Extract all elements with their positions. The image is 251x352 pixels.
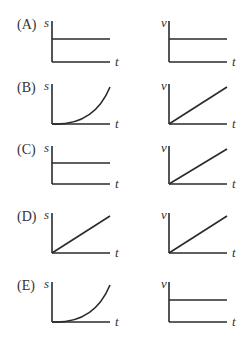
linear-line <box>52 216 110 253</box>
option-label: (D) <box>17 209 37 225</box>
velocity-time-graph: vt <box>161 207 236 260</box>
y-axis-label: v <box>161 140 167 155</box>
velocity-time-graph: vt <box>161 140 236 191</box>
option-c: (C)stvt <box>17 140 236 191</box>
linear-line <box>169 216 227 253</box>
option-b: (B)stvt <box>17 78 236 131</box>
option-a: (A)stvt <box>17 15 236 69</box>
x-axis-label: t <box>115 116 119 131</box>
y-axis-label: s <box>44 15 49 30</box>
x-axis-label: t <box>232 54 236 69</box>
position-time-graph: st <box>44 15 119 69</box>
y-axis-label: s <box>44 140 49 155</box>
parabola-curve <box>52 285 110 322</box>
option-label: (B) <box>17 80 36 96</box>
y-axis-label: s <box>44 276 49 291</box>
x-axis-label: t <box>232 314 236 329</box>
y-axis-label: v <box>161 15 167 30</box>
option-label: (E) <box>17 278 35 294</box>
x-axis-label: t <box>115 176 119 191</box>
x-axis-label: t <box>232 116 236 131</box>
option-label: (C) <box>17 142 36 158</box>
position-time-graph: st <box>44 276 119 329</box>
option-e: (E)stvt <box>17 276 236 329</box>
velocity-time-graph: vt <box>161 276 236 329</box>
velocity-time-graph: vt <box>161 15 236 69</box>
linear-line <box>169 87 227 124</box>
y-axis-label: s <box>44 78 49 93</box>
y-axis-label: s <box>44 207 49 222</box>
position-time-graph: st <box>44 78 119 131</box>
position-time-graph: st <box>44 140 119 191</box>
x-axis-label: t <box>115 245 119 260</box>
x-axis-label: t <box>232 176 236 191</box>
position-time-graph: st <box>44 207 119 260</box>
linear-line <box>169 149 227 184</box>
y-axis-label: v <box>161 207 167 222</box>
y-axis-label: v <box>161 78 167 93</box>
x-axis-label: t <box>115 314 119 329</box>
x-axis-label: t <box>115 54 119 69</box>
option-label: (A) <box>17 17 37 33</box>
x-axis-label: t <box>232 245 236 260</box>
option-d: (D)stvt <box>17 207 236 260</box>
y-axis-label: v <box>161 276 167 291</box>
parabola-curve <box>52 87 110 124</box>
velocity-time-graph: vt <box>161 78 236 131</box>
answer-choices-diagram: (A)stvt(B)stvt(C)stvt(D)stvt(E)stvt <box>0 0 251 352</box>
